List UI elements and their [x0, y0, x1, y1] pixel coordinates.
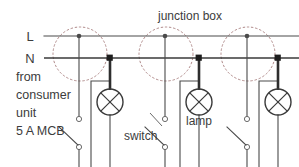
source-note-line-1: from [16, 70, 41, 84]
lamp-symbol-1 [97, 89, 123, 115]
lamp-symbol-3 [265, 89, 291, 115]
switch-top-terminal-1 [76, 116, 81, 121]
circuit-3 [227, 34, 291, 167]
lamp-symbol-2 [186, 89, 212, 115]
wiring-diagram-canvas: L N junction box from consumer unit 5 A … [0, 0, 299, 167]
switch-top-terminal-2 [162, 116, 167, 121]
neutral-junction-node-2 [196, 55, 202, 61]
source-note-line-3: unit [16, 106, 37, 120]
live-junction-node-3 [245, 34, 250, 39]
live-junction-node-2 [163, 34, 168, 39]
switch-bottom-terminal-2 [162, 144, 167, 149]
neutral-rail-label: N [25, 51, 34, 66]
circuit-2 [145, 34, 212, 167]
live-rail-label: L [26, 29, 33, 44]
supply-rails [44, 36, 299, 58]
wiring-diagram: L N junction box from consumer unit 5 A … [0, 0, 299, 167]
neutral-junction-node-3 [275, 55, 281, 61]
switch-bottom-terminal-1 [76, 144, 81, 149]
switch-symbol-3 [227, 116, 250, 167]
neutral-junction-node-1 [107, 55, 113, 61]
switch-leader-line [150, 113, 162, 126]
switch-bottom-terminal-3 [244, 144, 249, 149]
lamp-label: lamp [186, 114, 212, 128]
switch-blade-3 [227, 127, 246, 145]
source-note-line-2: consumer [16, 88, 71, 102]
live-junction-node-1 [77, 34, 82, 39]
junction-box-label: junction box [157, 9, 222, 23]
switch-top-terminal-3 [244, 116, 249, 121]
source-note-line-4: 5 A MCB [16, 124, 65, 138]
switch-label: switch [124, 129, 157, 143]
